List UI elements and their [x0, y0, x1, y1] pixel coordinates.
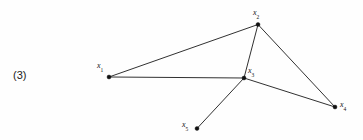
- node-label-x2: x2: [253, 9, 259, 19]
- graph-node-x1: [107, 75, 111, 79]
- node-label-subscript-x5: 5: [186, 126, 189, 132]
- graph-edge-x3-x5: [197, 78, 244, 129]
- graph-node-x3: [242, 76, 246, 80]
- graph-canvas: [0, 0, 363, 140]
- graph-node-x2: [256, 23, 260, 27]
- graph-edge-x1-x3: [109, 77, 244, 78]
- node-label-x5: x5: [182, 121, 188, 131]
- graph-node-x5: [195, 127, 199, 131]
- node-label-x1: x1: [97, 62, 103, 72]
- figure-container: x1x2x3x4x5 (3): [0, 0, 363, 140]
- nodes-group: [107, 23, 337, 131]
- node-label-subscript-x1: 1: [101, 67, 104, 73]
- node-label-subscript-x3: 3: [252, 72, 255, 78]
- graph-edge-x1-x2: [109, 25, 258, 78]
- edges-group: [109, 25, 335, 129]
- graph-node-x4: [333, 105, 337, 109]
- node-label-subscript-x4: 4: [344, 106, 347, 112]
- figure-caption-number: (3): [13, 70, 26, 81]
- node-label-x4: x4: [340, 101, 346, 111]
- node-label-subscript-x2: 2: [257, 14, 260, 20]
- node-label-x3: x3: [248, 67, 254, 77]
